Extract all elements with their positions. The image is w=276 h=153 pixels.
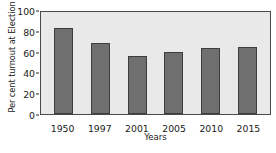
plot-area xyxy=(40,11,271,115)
x-axis-ticks: 195019972001200520102015 xyxy=(40,117,271,131)
bar-slot xyxy=(45,12,82,114)
bar-2001 xyxy=(128,56,147,114)
y-tick-label: 80 xyxy=(23,26,35,37)
bar-slot xyxy=(229,12,266,114)
y-tick-label: 20 xyxy=(23,89,35,100)
x-label-slot: 2001 xyxy=(118,117,155,131)
bars-container xyxy=(41,12,270,114)
y-tick-label: 100 xyxy=(17,6,35,17)
bar-1950 xyxy=(54,28,73,114)
y-tick-label: 40 xyxy=(23,68,35,79)
y-tick-mark xyxy=(36,73,39,74)
bar-slot xyxy=(82,12,119,114)
bar-2005 xyxy=(164,52,183,114)
y-tick-label: 60 xyxy=(23,47,35,58)
y-tick-mark xyxy=(36,11,39,12)
x-label-slot: 1997 xyxy=(81,117,118,131)
y-tick-mark xyxy=(36,115,39,116)
bar-2010 xyxy=(201,48,220,114)
y-tick-mark xyxy=(36,94,39,95)
y-tick-mark xyxy=(36,52,39,53)
y-axis-ticks: 020406080100 xyxy=(14,0,38,153)
x-axis-title: Years xyxy=(40,132,271,142)
bar-1997 xyxy=(91,43,110,114)
y-tick-mark xyxy=(36,31,39,32)
bar-slot xyxy=(155,12,192,114)
y-tick-label: 0 xyxy=(29,110,35,121)
bar-2015 xyxy=(238,47,257,114)
bar-slot xyxy=(192,12,229,114)
bar-slot xyxy=(119,12,156,114)
x-label-slot: 1950 xyxy=(44,117,81,131)
x-label-slot: 2005 xyxy=(156,117,193,131)
bar-chart: Per cent turnout at Election 02040608010… xyxy=(0,0,276,153)
x-label-slot: 2015 xyxy=(230,117,267,131)
x-label-slot: 2010 xyxy=(193,117,230,131)
